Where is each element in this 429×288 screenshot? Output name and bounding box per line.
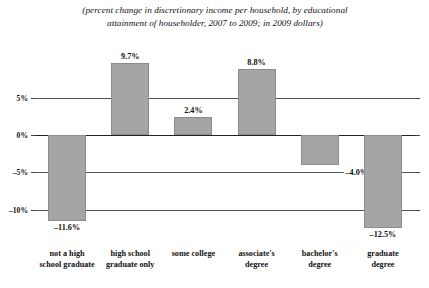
category-line-1: not a high	[50, 249, 85, 258]
bar[interactable]	[174, 117, 212, 135]
category-line-1: associate's	[238, 249, 274, 258]
y-axis-label-3: –10%	[9, 205, 28, 214]
bar-value-label: 8.8%	[247, 58, 265, 67]
bar-value-label: 9.7%	[121, 52, 139, 61]
category-line-2: degree	[371, 260, 394, 269]
chart-container: (percent change in discretionary income …	[0, 0, 429, 288]
y-tick-mark-right	[415, 210, 420, 211]
y-axis-label-2: –5%	[13, 168, 28, 177]
category-line-1: graduate	[367, 249, 398, 258]
x-axis-category-label: graduatedegree	[345, 248, 421, 270]
bar[interactable]	[301, 135, 339, 165]
gridline--10	[36, 210, 415, 211]
y-tick-mark-left	[31, 135, 36, 136]
chart-title: (percent change in discretionary income …	[44, 4, 386, 29]
bar[interactable]	[238, 69, 276, 135]
y-tick-mark-right	[415, 135, 420, 136]
y-axis-label-1: 0%	[17, 131, 28, 140]
category-line-2: school graduate	[39, 260, 94, 269]
category-line-1: high school	[111, 249, 150, 258]
y-tick-mark-left	[31, 98, 36, 99]
bar[interactable]	[111, 63, 149, 135]
y-tick-mark-right	[415, 172, 420, 173]
category-line-2: degree	[308, 260, 331, 269]
category-line-2: degree	[245, 260, 268, 269]
category-line-1: some college	[172, 249, 215, 258]
y-tick-mark-left	[31, 210, 36, 211]
bar-value-label: –12.5%	[370, 230, 397, 239]
plot-area: 5%0%–5%–10%–11.6%9.7%2.4%8.8%–4.0%–12.5%	[36, 55, 415, 235]
category-line-1: bachelor's	[302, 249, 338, 258]
y-tick-mark-right	[415, 98, 420, 99]
chart-title-line-2: attainment of householder, 2007 to 2009;…	[107, 18, 323, 28]
bar-value-label: –11.6%	[54, 223, 80, 232]
chart-title-line-1: (percent change in discretionary income …	[82, 5, 347, 15]
bar-value-label: 2.4%	[184, 106, 202, 115]
y-axis-label-0: 5%	[17, 93, 28, 102]
bar[interactable]	[48, 135, 86, 221]
y-tick-mark-left	[31, 172, 36, 173]
bar[interactable]	[364, 135, 402, 228]
gridline-5	[36, 98, 415, 99]
gridline-zero	[36, 135, 415, 136]
category-line-2: graduate only	[106, 260, 154, 269]
